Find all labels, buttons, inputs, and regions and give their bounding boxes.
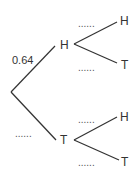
probability-tree: H T H T H T 0.64 ...... ...... ...... ..…	[0, 0, 140, 183]
prob-HT-blank: ......	[78, 62, 95, 73]
prob-TH-blank: ......	[78, 114, 95, 125]
branch-root-to-H	[11, 46, 55, 92]
prob-HH-blank: ......	[78, 18, 95, 29]
node-HT: T	[121, 58, 129, 72]
prob-TT-blank: ......	[78, 157, 95, 168]
node-TH: H	[120, 110, 129, 124]
node-H: H	[60, 38, 69, 52]
node-T: T	[60, 133, 68, 147]
prob-T-blank: ......	[15, 128, 32, 139]
node-TT: T	[121, 155, 129, 169]
node-HH: H	[120, 14, 129, 28]
branch-H-to-T	[74, 44, 117, 63]
prob-H: 0.64	[12, 54, 33, 66]
